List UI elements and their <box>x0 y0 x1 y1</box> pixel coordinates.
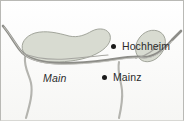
city-label-hochheim: Hochheim <box>122 41 170 52</box>
city-marker-hochheim <box>111 44 116 49</box>
city-marker-mainz <box>102 75 107 80</box>
river-label-main: Main <box>43 73 67 84</box>
map-figure: Hochheim Mainz Main <box>0 0 184 121</box>
map-canvas <box>0 0 184 121</box>
city-label-mainz: Mainz <box>113 72 142 83</box>
